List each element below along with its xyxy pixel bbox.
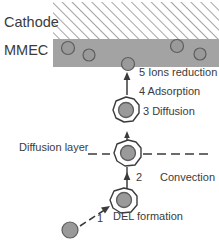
particle-in-band	[62, 42, 75, 55]
label-diffusion-layer: Diffusion layer	[19, 141, 89, 153]
particle-core	[117, 193, 132, 208]
label-step-2-name: Convection	[160, 171, 215, 183]
cathode-hatch-fill	[53, 2, 219, 39]
solvated-ion-diffusion	[113, 97, 139, 122]
diagram-canvas: Cathode MMEC 5 Ions reduction 4 Adsorpti…	[0, 0, 219, 245]
label-step-1-name: DEL formation	[113, 210, 183, 222]
label-cathode: Cathode	[4, 14, 59, 30]
particle-core	[119, 103, 134, 118]
label-step-5: 5 Ions reduction	[139, 66, 217, 78]
label-mmec: MMEC	[4, 42, 48, 58]
particle-ion-reduction	[122, 58, 135, 71]
label-step-4: 4 Adsorption	[139, 85, 200, 97]
electrodeposition-diagram: Cathode MMEC 5 Ions reduction 4 Adsorpti…	[0, 0, 219, 245]
particle-in-band	[194, 48, 206, 60]
label-step-2-number: 2	[136, 171, 142, 183]
particle-in-band	[171, 40, 184, 53]
particle-in-band	[83, 49, 95, 61]
label-step-1-number: 1	[97, 212, 103, 224]
label-step-3: 3 Diffusion	[143, 105, 195, 117]
free-ion-particle	[62, 222, 78, 238]
cathode-region	[53, 2, 219, 39]
particle-core	[121, 146, 136, 161]
